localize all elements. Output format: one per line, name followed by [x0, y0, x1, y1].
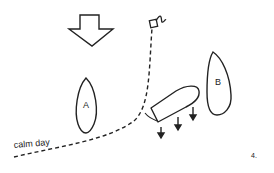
boat-b: B: [207, 52, 231, 115]
boat-a-label: A: [83, 100, 89, 110]
sailing-diagram: A B calm day 4.: [0, 0, 274, 173]
boat-a: A: [76, 78, 96, 133]
wind-direction-arrow-icon: [69, 15, 113, 46]
buoy-mark-icon: [149, 16, 166, 27]
boat-b-label: B: [215, 77, 221, 87]
calm-day-label: calm day: [13, 137, 50, 150]
figure-number: 4.: [251, 152, 257, 159]
